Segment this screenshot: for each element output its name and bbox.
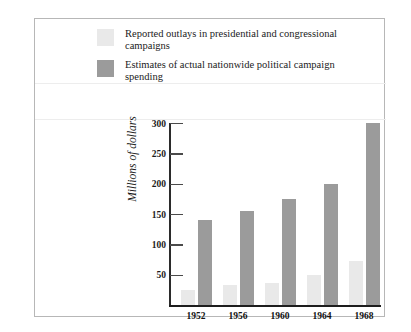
x-axis-label: 1952	[173, 311, 219, 321]
bar	[324, 184, 338, 305]
bar	[181, 290, 195, 305]
y-tick-label: 50	[157, 270, 167, 280]
bar	[198, 220, 212, 305]
legend-label-reported-outlays: Reported outlays in presidential and con…	[125, 28, 372, 53]
bar	[223, 285, 237, 305]
y-tick-label: 200	[152, 179, 166, 189]
bar	[240, 211, 254, 305]
bar	[282, 199, 296, 305]
legend-swatch-reported-outlays	[97, 29, 114, 46]
y-tick-label: 250	[152, 149, 166, 159]
y-tick-label: 150	[152, 210, 166, 220]
bar-group	[223, 123, 254, 305]
bar-group	[307, 123, 338, 305]
x-axis-label: 1968	[341, 311, 387, 321]
y-tick-label: 100	[152, 240, 166, 250]
legend-swatch-estimated-spending	[97, 60, 114, 77]
x-axis-label: 1956	[215, 311, 261, 321]
figure-frame: Reported outlays in presidential and con…	[34, 18, 385, 317]
bar	[307, 275, 321, 305]
legend-label-estimated-spending: Estimates of actual nationwide political…	[125, 59, 372, 84]
chart-plot-area: Millions of dollars 50100150200250300 19…	[130, 105, 382, 309]
x-axis-label: 1960	[257, 311, 303, 321]
x-axis-label: 1964	[299, 311, 345, 321]
legend-item-reported-outlays: Reported outlays in presidential and con…	[97, 28, 372, 53]
bar	[349, 261, 363, 305]
legend-item-estimated-spending: Estimates of actual nationwide political…	[97, 59, 372, 84]
bar	[366, 123, 380, 305]
y-tick-label: 300	[152, 119, 166, 129]
x-axis-line	[169, 305, 381, 307]
y-axis-title: Millions of dollars	[126, 94, 138, 224]
bar	[265, 283, 279, 305]
bar-group	[265, 123, 296, 305]
chart-legend: Reported outlays in presidential and con…	[97, 28, 372, 89]
bar-group	[181, 123, 212, 305]
bar-group	[349, 123, 380, 305]
